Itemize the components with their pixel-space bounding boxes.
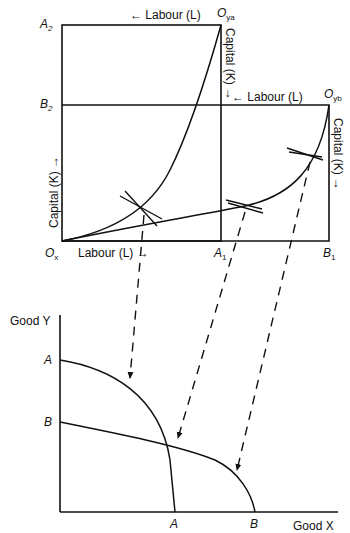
x-axis-label: Good X [293, 519, 334, 533]
ppf-axes [60, 315, 338, 512]
label-Oyb: Oyb [324, 87, 342, 103]
oya-capital-label: Capital (K) → [223, 28, 237, 100]
left-capital-label: Capital (K) → [47, 156, 61, 228]
mapping-arrows [130, 162, 310, 470]
x-intercept-B: B [250, 517, 258, 531]
x-intercept-A: A [169, 517, 178, 531]
label-B1: B1 [323, 246, 336, 262]
top-labour-label: ← Labour (L) [130, 8, 201, 22]
contract-curve-b [62, 105, 329, 241]
label-A1: A1 [213, 246, 227, 262]
ppf-curve-a [60, 360, 175, 512]
label-B2: B2 [40, 97, 53, 113]
oyb-capital-label: Capital (K) → [331, 118, 345, 190]
mid-labour-label: ← Labour (L) [232, 90, 303, 104]
diagram-canvas: A2 B2 Ox Oya Oyb A1 B1 ← Labour (L) ← La… [0, 0, 350, 533]
bottom-labour-label: Labour (L) → [78, 246, 149, 260]
y-intercept-A: A [43, 353, 52, 367]
edgeworth-box-b [62, 105, 329, 241]
ppf-curve-b [60, 422, 255, 512]
label-Ox: Ox [45, 246, 58, 262]
label-A2: A2 [39, 17, 53, 33]
y-axis-label: Good Y [10, 314, 50, 328]
tangency-point-a [120, 191, 162, 226]
label-Oya: Oya [217, 6, 235, 22]
y-intercept-B: B [44, 415, 52, 429]
